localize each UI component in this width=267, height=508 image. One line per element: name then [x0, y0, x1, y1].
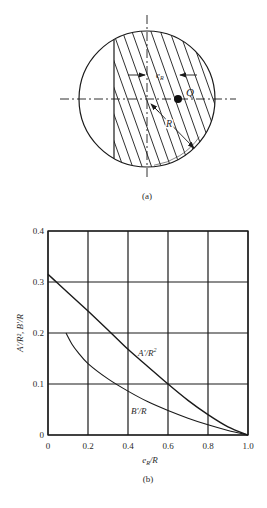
x-tick-label: 0.8: [202, 441, 214, 451]
caption-a: (a): [142, 191, 152, 201]
caption-b: (b): [143, 474, 154, 484]
x-tick-label: 1.0: [242, 441, 254, 451]
x-tick-labels: 00.20.40.60.81.0: [46, 441, 254, 451]
y-tick-label: 0.1: [33, 379, 44, 389]
chart-grid: [48, 231, 248, 435]
x-axis-label: eR/R: [142, 455, 158, 466]
eccentricity-label: eR: [156, 70, 164, 81]
x-tick-label: 0.6: [162, 441, 174, 451]
radius-label: R: [165, 118, 172, 129]
y-axis-label: A'/R², B'/R: [15, 313, 25, 353]
y-tick-labels: 00.10.20.30.4: [33, 226, 45, 440]
x-tick-label: 0.4: [122, 441, 134, 451]
figure-b-chart: 00.10.20.30.4 00.20.40.60.81.0 A'/R2 B'/…: [15, 226, 254, 484]
figure-a: Q eR R R (a): [54, 15, 267, 201]
x-tick-label: 0.2: [82, 441, 93, 451]
y-tick-label: 0.2: [33, 328, 44, 338]
point-q-label: Q: [186, 86, 194, 98]
point-q-dot: [174, 95, 182, 103]
figure: Q eR R R (a) 00.10.20.30.4 00.20.40.60.8…: [0, 0, 267, 508]
y-tick-label: 0.4: [33, 226, 45, 236]
y-tick-label: 0.3: [33, 277, 45, 287]
series-b-label: B'/R: [131, 406, 147, 416]
y-tick-label: 0: [40, 430, 45, 440]
x-tick-label: 0: [46, 441, 51, 451]
series-a-label: A'/R2: [137, 347, 156, 358]
